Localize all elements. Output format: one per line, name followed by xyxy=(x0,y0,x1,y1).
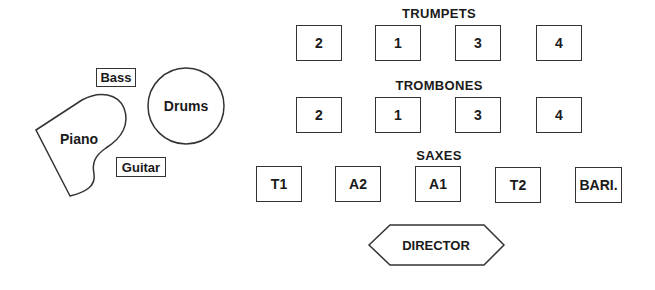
piano-label: Piano xyxy=(60,131,98,147)
trumpet-chair: 3 xyxy=(455,25,501,61)
trumpets-title: TRUMPETS xyxy=(402,6,476,21)
drums-label: Drums xyxy=(164,98,208,114)
sax-chair: T1 xyxy=(256,166,302,202)
bass-label: Bass xyxy=(100,70,131,85)
trombone-chair: 2 xyxy=(296,97,342,133)
guitar-label: Guitar xyxy=(122,160,160,175)
saxes-title: SAXES xyxy=(416,148,462,163)
sax-chair: A2 xyxy=(335,166,381,202)
trumpet-chair: 4 xyxy=(536,25,582,61)
trombone-chair: 1 xyxy=(375,97,421,133)
guitar-position: Guitar xyxy=(116,157,166,177)
trombone-chair: 3 xyxy=(455,97,501,133)
trombone-chair: 4 xyxy=(536,97,582,133)
director-label: DIRECTOR xyxy=(402,238,470,253)
trombones-title: TROMBONES xyxy=(395,78,482,93)
trumpet-chair: 2 xyxy=(296,25,342,61)
bass-position: Bass xyxy=(96,68,136,87)
sax-chair: A1 xyxy=(415,166,461,202)
trumpet-chair: 1 xyxy=(375,25,421,61)
sax-chair: T2 xyxy=(495,167,541,203)
sax-chair: BARI. xyxy=(575,167,622,203)
